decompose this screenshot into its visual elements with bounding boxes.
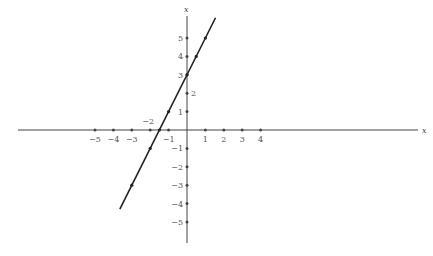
data-line bbox=[120, 18, 216, 209]
y-tick-label: −5 bbox=[171, 218, 183, 227]
y-tick-label: 2 bbox=[191, 89, 196, 98]
line-point bbox=[185, 73, 188, 76]
axes bbox=[18, 16, 418, 243]
x-tick-label: −1 bbox=[163, 135, 175, 144]
line-point bbox=[130, 184, 133, 187]
x-tick-label: −2 bbox=[142, 117, 154, 126]
y-tick-dot bbox=[186, 202, 189, 205]
x-tick-dot bbox=[204, 129, 207, 132]
y-tick-label: 4 bbox=[178, 52, 183, 61]
line-point bbox=[149, 147, 152, 150]
x-tick-label: −4 bbox=[108, 135, 120, 144]
x-tick-label: 1 bbox=[203, 135, 208, 144]
y-tick-dot bbox=[186, 55, 189, 58]
y-tick-label: 5 bbox=[178, 34, 183, 43]
x-tick-dot bbox=[130, 129, 133, 132]
x-tick-dot bbox=[167, 129, 170, 132]
y-tick-dot bbox=[186, 92, 189, 95]
y-tick-label: −2 bbox=[171, 163, 183, 172]
x-tick-dot bbox=[259, 129, 262, 132]
x-tick-dot bbox=[222, 129, 225, 132]
y-tick-label: −1 bbox=[171, 144, 183, 153]
x-tick-label: 3 bbox=[240, 135, 245, 144]
y-axis-label: x bbox=[184, 5, 189, 14]
line-point bbox=[195, 55, 198, 58]
y-tick-label: −3 bbox=[171, 181, 183, 190]
x-tick-label: 4 bbox=[258, 135, 263, 144]
x-tick-label: −3 bbox=[126, 135, 138, 144]
x-tick-dot bbox=[112, 129, 115, 132]
y-tick-dot bbox=[186, 110, 189, 113]
x-tick-dot bbox=[241, 129, 244, 132]
x-tick-dot bbox=[149, 129, 152, 132]
y-tick-dot bbox=[186, 147, 189, 150]
plotted-line bbox=[120, 18, 216, 209]
y-tick-dot bbox=[186, 184, 189, 187]
y-tick-label: 1 bbox=[178, 108, 183, 117]
y-tick-label: −4 bbox=[171, 200, 183, 209]
y-tick-dot bbox=[186, 165, 189, 168]
x-axis-label: x bbox=[422, 126, 427, 135]
y-tick-dot bbox=[186, 37, 189, 40]
x-tick-label: 2 bbox=[221, 135, 226, 144]
line-point bbox=[158, 128, 161, 131]
y-tick-label: 3 bbox=[178, 71, 183, 80]
x-tick-dot bbox=[94, 129, 97, 132]
y-tick-dot bbox=[186, 221, 189, 224]
x-tick-label: −5 bbox=[89, 135, 101, 144]
line-point bbox=[204, 36, 207, 39]
coordinate-plane: −5−4−3−2−1123454321−1−2−3−4−5 x x bbox=[0, 0, 433, 256]
line-point bbox=[167, 110, 170, 113]
